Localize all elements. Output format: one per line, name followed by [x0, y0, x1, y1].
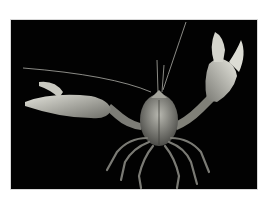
left-antenna [23, 68, 151, 92]
crayfish-illustration [11, 20, 257, 189]
crayfish-photo [11, 20, 257, 189]
right-antenna [163, 22, 186, 90]
left-arm [106, 104, 145, 130]
left-claw [25, 95, 111, 118]
